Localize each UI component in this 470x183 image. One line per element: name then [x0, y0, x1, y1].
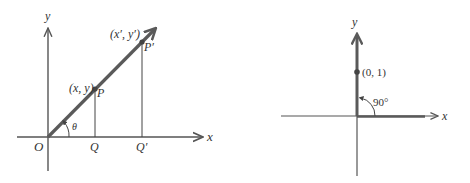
rotated-vector [48, 29, 155, 137]
left-diagram: y x O θ (x, y) P (x′, y′) P′ Q Q′ [17, 9, 213, 171]
ninety-degree-label: 90° [373, 96, 388, 108]
left-x-axis-label: x [206, 129, 213, 144]
point-p-prime-label: P′ [143, 40, 154, 54]
foot-q-prime-label: Q′ [136, 140, 148, 154]
right-diagram: y x (0, 1) 90° [281, 15, 448, 176]
point-0-1-label: (0, 1) [362, 66, 386, 79]
point-0-1 [354, 69, 360, 75]
theta-arc [64, 122, 69, 137]
foot-q-label: Q [90, 140, 99, 154]
right-y-axis-label: y [351, 15, 358, 29]
origin-label: O [34, 139, 44, 154]
left-y-axis-label: y [44, 9, 51, 23]
right-x-axis-label: x [441, 109, 448, 123]
point-p-label: P [96, 86, 105, 100]
point-p-prime-coord-label: (x′, y′) [110, 27, 140, 41]
figure-canvas: y x O θ (x, y) P (x′, y′) P′ Q Q′ y x (0… [0, 0, 470, 183]
theta-label: θ [72, 121, 77, 132]
point-p-coord-label: (x, y) [69, 81, 94, 95]
